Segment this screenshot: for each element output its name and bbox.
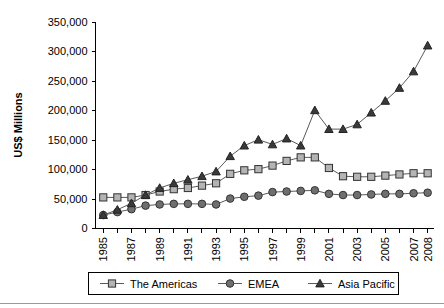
- x-tick-label: 2005: [379, 237, 391, 261]
- data-point-circle: [297, 187, 305, 195]
- data-point-circle: [325, 190, 333, 198]
- data-point-square: [424, 170, 431, 177]
- data-point-square: [368, 173, 375, 180]
- y-tick-label: 250,000: [48, 75, 88, 87]
- x-tick-label: 1995: [238, 237, 250, 261]
- data-point-circle: [170, 200, 178, 208]
- y-tick-label: 200,000: [48, 104, 88, 116]
- data-point-circle: [212, 201, 220, 209]
- legend-label: The Americas: [130, 278, 198, 290]
- data-point-triangle: [297, 141, 305, 149]
- data-point-square: [241, 167, 248, 174]
- y-tick-label: 0: [81, 222, 87, 234]
- data-point-square: [227, 170, 234, 177]
- x-tick-label: 2008: [422, 237, 434, 261]
- plot-series-group: [99, 41, 432, 219]
- data-point-circle: [424, 189, 432, 197]
- x-tick-label: 1985: [97, 237, 109, 261]
- data-point-triangle: [311, 106, 319, 114]
- x-tick-label: 1989: [154, 237, 166, 261]
- y-axis-title: US$ Millions: [12, 92, 24, 157]
- data-point-square: [212, 180, 219, 187]
- legend-label: Asia Pacific: [338, 278, 395, 290]
- data-point-square: [410, 170, 417, 177]
- data-point-square: [325, 164, 332, 171]
- data-point-square: [108, 280, 115, 287]
- data-point-triangle: [423, 41, 431, 49]
- x-tick-label: 2003: [351, 237, 363, 261]
- data-point-square: [269, 162, 276, 169]
- y-tick-label: 100,000: [48, 163, 88, 175]
- y-tick-label: 150,000: [48, 134, 88, 146]
- data-point-circle: [184, 200, 192, 208]
- y-tick-label: 50,000: [54, 193, 88, 205]
- data-point-square: [184, 184, 191, 191]
- data-point-square: [283, 157, 290, 164]
- x-tick-label: 1987: [125, 237, 137, 261]
- data-point-circle: [240, 193, 248, 201]
- data-point-square: [198, 182, 205, 189]
- data-point-circle: [410, 189, 418, 197]
- data-point-square: [354, 173, 361, 180]
- x-tick-label: 1993: [210, 237, 222, 261]
- x-tick-label: 1991: [182, 237, 194, 261]
- data-point-circle: [382, 190, 390, 198]
- data-point-circle: [311, 187, 319, 195]
- data-point-triangle: [268, 140, 276, 148]
- data-point-triangle: [254, 136, 262, 144]
- x-tick-label: 2007: [408, 237, 420, 261]
- data-point-circle: [226, 280, 234, 288]
- legend-items-group: The AmericasEMEAAsia Pacific: [100, 278, 395, 290]
- data-point-square: [100, 194, 107, 201]
- y-axis-ticks: 050,000100,000150,000200,000250,000300,0…: [48, 16, 96, 234]
- data-point-square: [339, 173, 346, 180]
- data-point-square: [255, 166, 262, 173]
- data-point-square: [382, 172, 389, 179]
- x-tick-label: 2001: [323, 237, 335, 261]
- data-point-square: [297, 154, 304, 161]
- x-tick-label: 1999: [295, 237, 307, 261]
- data-point-circle: [269, 188, 277, 196]
- data-point-triangle: [282, 134, 290, 142]
- data-point-square: [311, 154, 318, 161]
- chart-container: US$ Millions 050,000100,000150,000200,00…: [0, 0, 444, 308]
- y-axis-title-text: US$ Millions: [12, 92, 24, 157]
- data-point-square: [396, 171, 403, 178]
- x-tick-label: 1997: [267, 237, 279, 261]
- data-point-circle: [255, 192, 263, 200]
- y-tick-label: 300,000: [48, 45, 88, 57]
- data-point-circle: [367, 191, 375, 199]
- data-point-circle: [226, 195, 234, 203]
- data-point-circle: [396, 190, 404, 198]
- series-line: [103, 46, 427, 216]
- data-point-circle: [142, 202, 150, 210]
- data-point-triangle: [240, 141, 248, 149]
- data-point-square: [114, 194, 121, 201]
- series-line: [103, 190, 427, 215]
- y-tick-label: 350,000: [48, 16, 88, 28]
- legend-label: EMEA: [248, 278, 280, 290]
- data-point-circle: [353, 191, 361, 199]
- data-point-triangle: [198, 172, 206, 180]
- data-point-circle: [339, 191, 347, 199]
- data-point-circle: [283, 188, 291, 196]
- data-point-triangle: [226, 152, 234, 160]
- x-axis-ticks: 1985198719891991199319951997199920012003…: [97, 229, 433, 261]
- data-point-circle: [156, 201, 164, 209]
- data-point-triangle: [409, 67, 417, 75]
- data-point-circle: [198, 200, 206, 208]
